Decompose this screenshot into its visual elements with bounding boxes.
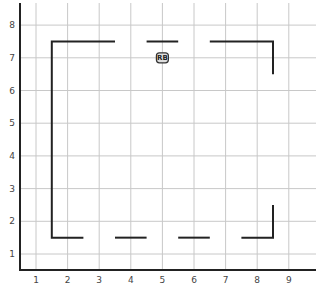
robot-label: RB bbox=[157, 54, 168, 62]
x-tick-label: 6 bbox=[191, 275, 197, 285]
y-tick-label: 3 bbox=[9, 184, 15, 194]
y-tick-label: 2 bbox=[9, 216, 15, 226]
x-tick-label: 8 bbox=[254, 275, 260, 285]
x-tick-label: 1 bbox=[33, 275, 39, 285]
y-tick-label: 4 bbox=[9, 151, 15, 161]
y-tick-label: 6 bbox=[9, 86, 15, 96]
x-tick-label: 5 bbox=[160, 275, 166, 285]
x-tick-label: 3 bbox=[96, 275, 102, 285]
x-tick-label: 9 bbox=[286, 275, 292, 285]
plot-area: 12345678912345678RB bbox=[0, 0, 321, 294]
x-tick-label: 2 bbox=[65, 275, 71, 285]
x-tick-label: 7 bbox=[223, 275, 229, 285]
wall-segment bbox=[52, 41, 115, 237]
y-tick-label: 7 bbox=[9, 53, 15, 63]
x-tick-label: 4 bbox=[128, 275, 134, 285]
y-tick-label: 5 bbox=[9, 118, 15, 128]
y-tick-label: 8 bbox=[9, 20, 15, 30]
y-tick-label: 1 bbox=[9, 249, 15, 259]
